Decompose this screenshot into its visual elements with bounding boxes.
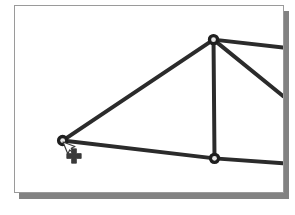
frame-diagram-canvas[interactable]: [15, 6, 283, 192]
node-hole-apex-node: [211, 37, 216, 42]
member-bottom-chord[interactable]: [63, 141, 215, 159]
node-hole-left-support-node: [60, 138, 65, 143]
document-window[interactable]: [14, 5, 284, 193]
members-group: [63, 40, 283, 164]
member-vertical-web[interactable]: [214, 40, 215, 159]
node-hole-mid-span-node: [212, 156, 217, 161]
screen-root: Structural Frame Editor Partial truss fr…: [0, 0, 295, 215]
member-top-chord[interactable]: [63, 40, 214, 141]
member-bottom-chord-right-extension[interactable]: [215, 158, 283, 163]
